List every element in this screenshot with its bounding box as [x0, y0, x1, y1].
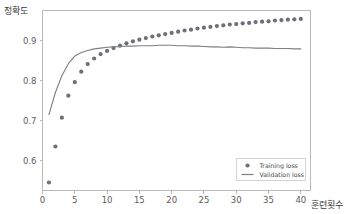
legend-marker-dot-icon [245, 163, 249, 167]
data-point [53, 144, 57, 148]
data-point [60, 116, 64, 120]
data-point [234, 22, 238, 26]
y-tick-label: 0.7 [23, 116, 37, 126]
data-point [157, 33, 161, 37]
data-point [99, 52, 103, 56]
data-point [163, 32, 167, 36]
x-tick-label: 0 [40, 195, 45, 205]
x-tick-label: 25 [199, 195, 210, 205]
y-axis-ticks: 0.60.70.80.9 [23, 36, 43, 166]
validation-loss-line [49, 45, 301, 114]
x-tick-label: 15 [134, 195, 145, 205]
data-point [254, 20, 258, 24]
data-point [47, 180, 51, 184]
data-point [221, 23, 225, 27]
data-point [202, 26, 206, 30]
accuracy-chart: 0.60.70.80.9 0510152025303540 Training l… [0, 0, 357, 214]
data-point [137, 38, 141, 42]
data-point [170, 31, 174, 35]
chart-legend: Training lossValidation loss [237, 159, 306, 181]
data-point [260, 20, 264, 24]
y-tick-label: 0.8 [23, 76, 37, 86]
data-point [79, 70, 83, 74]
data-point [176, 30, 180, 34]
data-point [241, 21, 245, 25]
data-point [144, 36, 148, 40]
data-point [266, 19, 270, 23]
x-tick-label: 20 [166, 195, 177, 205]
data-point [66, 94, 70, 98]
data-point [215, 24, 219, 28]
x-tick-label: 35 [263, 195, 274, 205]
x-axis-ticks: 0510152025303540 [40, 191, 306, 205]
y-tick-label: 0.9 [23, 36, 37, 46]
data-point [247, 21, 251, 25]
legend-label: Validation loss [260, 171, 304, 178]
chart-canvas: 0.60.70.80.9 0510152025303540 Training l… [0, 0, 357, 214]
data-point [131, 39, 135, 43]
data-point [273, 18, 277, 22]
data-point [150, 34, 154, 38]
x-tick-label: 30 [231, 195, 242, 205]
x-tick-label: 10 [102, 195, 113, 205]
legend-label: Training loss [259, 162, 298, 170]
data-point [228, 22, 232, 26]
y-axis-label: 정확도 [4, 5, 28, 16]
y-tick-label: 0.6 [23, 156, 37, 166]
data-point [279, 18, 283, 22]
x-tick-label: 5 [72, 195, 77, 205]
x-tick-label: 40 [295, 195, 306, 205]
data-point [124, 41, 128, 45]
data-point [105, 49, 109, 53]
data-point [195, 26, 199, 30]
data-point [292, 17, 296, 21]
x-axis-label: 훈련횟수 [311, 199, 343, 210]
data-point [182, 28, 186, 32]
data-point [189, 28, 193, 32]
data-point [73, 80, 77, 84]
data-point [299, 17, 303, 21]
data-point [92, 56, 96, 60]
data-point [118, 44, 122, 48]
data-point [86, 62, 90, 66]
data-point [286, 18, 290, 22]
data-point [208, 25, 212, 29]
